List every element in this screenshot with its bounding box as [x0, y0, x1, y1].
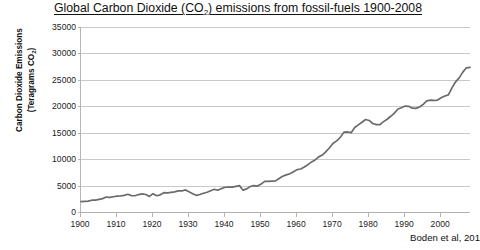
- emissions-line-series: [81, 27, 470, 212]
- x-tick-label: 1950: [251, 219, 270, 229]
- chart-title-subscript: 2: [204, 8, 208, 17]
- x-tick-mark: [368, 213, 369, 217]
- x-tick-mark: [152, 213, 153, 217]
- y-axis-title-line2-before: (Teragrams CO: [27, 54, 36, 113]
- x-tick-mark: [116, 213, 117, 217]
- x-tick-mark: [332, 213, 333, 217]
- y-axis-title: Carbon Dioxide Emissions (Teragrams CO2): [14, 0, 38, 160]
- x-tick-label: 1970: [323, 219, 342, 229]
- y-axis-title-subscript: 2: [31, 50, 37, 53]
- source-annotation: Boden et al, 201: [410, 232, 480, 243]
- chart-title-after: ) emissions from fossil-fuels 1900-2008: [208, 1, 422, 15]
- x-tick-label: 2000: [431, 219, 450, 229]
- chart-title-before: Global Carbon Dioxide (CO: [54, 1, 204, 15]
- emissions-polyline: [81, 67, 470, 201]
- y-tick-label: 10000: [52, 154, 76, 164]
- y-tick-label: 15000: [52, 128, 76, 138]
- y-tick-label: 20000: [52, 101, 76, 111]
- x-tick-label: 1910: [106, 219, 125, 229]
- y-tick-label: 30000: [52, 48, 76, 58]
- x-tick-label: 1940: [215, 219, 234, 229]
- x-tick-mark: [188, 213, 189, 217]
- x-tick-label: 1920: [142, 219, 161, 229]
- x-tick-label: 1900: [70, 219, 89, 229]
- y-tick-label: 5000: [57, 181, 76, 191]
- x-tick-mark: [404, 213, 405, 217]
- x-tick-label: 1960: [287, 219, 306, 229]
- x-tick-label: 1930: [178, 219, 197, 229]
- x-tick-mark: [224, 213, 225, 217]
- x-tick-label: 1980: [359, 219, 378, 229]
- x-tick-label: 1990: [395, 219, 414, 229]
- y-tick-label: 35000: [52, 22, 76, 32]
- plot-area: 05000100001500020000250003000035000: [80, 27, 470, 212]
- y-tick-label: 0: [71, 207, 76, 217]
- x-tick-mark: [296, 213, 297, 217]
- x-axis: 1900191019201930194019501960197019801990…: [80, 212, 469, 213]
- x-tick-mark: [440, 213, 441, 217]
- y-axis-title-line1: Carbon Dioxide Emissions: [15, 28, 24, 132]
- x-tick-mark: [80, 213, 81, 217]
- y-tick-label: 25000: [52, 75, 76, 85]
- chart-title: Global Carbon Dioxide (CO2) emissions fr…: [0, 1, 476, 15]
- x-tick-mark: [260, 213, 261, 217]
